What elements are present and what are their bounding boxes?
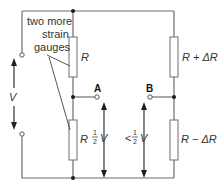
bridge-circuit-diagram: V two more strain gauges R R R + ΔR R − … [0,0,221,187]
annotation-line-2: strain [42,28,69,40]
resistor-bottom-left-label: R [80,133,88,145]
node-a-voltage-unit: V [100,132,109,144]
node-b-less-than: < [125,132,131,144]
junction-node-a [71,95,75,99]
resistor-top-left [69,37,77,77]
resistor-top-right [170,37,178,77]
junction-node-b [172,95,176,99]
annotation-leader-bottom [49,57,70,130]
node-a-frac-num: 1 [93,129,97,136]
left-supply-wire-bottom [22,136,174,178]
node-b-frac-den: 2 [133,138,137,145]
junction-bottom-left [71,176,75,180]
resistor-top-right-label: R + ΔR [182,51,218,63]
annotation-line-1: two more [27,15,72,27]
node-b-voltage-unit: V [140,132,149,144]
node-b-voltage-label: < 1 2 V [125,129,149,145]
junction-top-left [71,9,75,13]
node-a-label: A [94,83,101,94]
terminal-a [95,95,99,99]
supply-terminal-bottom [20,132,24,136]
resistor-bottom-right [170,120,178,160]
resistor-top-left-label: R [81,51,89,63]
resistor-bottom-left [69,120,77,160]
supply-voltage-label: V [9,91,18,103]
node-b-label: B [146,83,153,94]
node-a-voltage-label: 1 2 V [92,129,109,145]
node-a-frac-den: 2 [93,138,97,145]
annotation-line-3: gauges [34,41,71,53]
terminal-b [148,95,152,99]
resistor-bottom-right-label: R − ΔR [181,133,217,145]
node-b-frac-num: 1 [133,129,137,136]
supply-terminal-top [20,53,24,57]
